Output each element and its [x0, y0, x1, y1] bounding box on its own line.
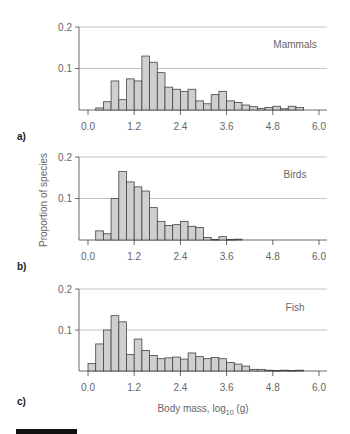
- histogram-bar: [180, 221, 188, 240]
- histogram-bar: [288, 106, 296, 110]
- histogram-bar: [173, 225, 181, 240]
- series-label-fish: Fish: [286, 302, 305, 313]
- histogram-bar: [234, 364, 242, 371]
- histogram-bar: [196, 228, 204, 240]
- histogram-bar: [142, 56, 150, 110]
- x-tick-label: 6.0: [312, 382, 326, 393]
- histogram-bar: [227, 101, 235, 110]
- histogram-bar: [188, 226, 196, 240]
- histogram-bar: [265, 370, 273, 371]
- histogram-bar: [273, 371, 281, 372]
- x-tick-label: 2.4: [173, 382, 187, 393]
- histogram-bar: [204, 238, 212, 240]
- histogram-bar: [96, 344, 104, 371]
- histogram-bar: [88, 364, 96, 371]
- histogram-bar: [103, 234, 111, 240]
- histogram-bar: [127, 79, 135, 110]
- x-tick-label: 1.2: [127, 251, 141, 262]
- histogram-bar: [96, 108, 104, 110]
- histogram-bar: [142, 191, 150, 240]
- histogram-bar: [281, 370, 289, 371]
- histogram-bar: [204, 104, 212, 110]
- histogram-bar: [111, 199, 119, 241]
- series-label-birds: Birds: [284, 169, 307, 180]
- histogram-bar: [281, 109, 289, 110]
- y-tick-label: 0.1: [58, 193, 72, 204]
- histogram-bar: [165, 358, 173, 371]
- histogram-bar: [250, 369, 258, 371]
- histogram-bar: [296, 370, 304, 371]
- x-tick-label: 1.2: [127, 121, 141, 132]
- histogram-bar: [142, 351, 150, 372]
- histogram-bar: [211, 240, 219, 241]
- y-tick-label: 0.1: [58, 325, 72, 336]
- panel-letter: c): [17, 396, 26, 407]
- x-tick-label: 3.6: [220, 382, 234, 393]
- chart-panel-birds: 0.10.20.01.22.43.64.86.0Birdsb): [17, 152, 327, 273]
- histogram-bar: [157, 359, 165, 371]
- histogram-bar: [265, 108, 273, 110]
- histogram-bar: [119, 172, 127, 240]
- histogram-bar: [196, 357, 204, 371]
- histogram-bar: [134, 339, 142, 371]
- histogram-bar: [227, 240, 235, 241]
- panel-letter: a): [17, 131, 26, 142]
- x-tick-label: 3.6: [220, 121, 234, 132]
- y-tick-label: 0.2: [58, 284, 72, 295]
- histogram-bar: [188, 353, 196, 371]
- histogram-bar: [188, 89, 196, 110]
- histogram-bar: [119, 100, 127, 110]
- histogram-bar: [127, 355, 135, 371]
- histogram-bar: [257, 108, 265, 110]
- histogram-bar: [219, 91, 227, 110]
- histogram-bar: [96, 231, 104, 240]
- histogram-bar: [173, 357, 181, 371]
- y-tick-label: 0.2: [58, 22, 72, 33]
- histogram-bar: [273, 106, 281, 110]
- x-tick-label: 2.4: [173, 251, 187, 262]
- x-tick-label: 1.2: [127, 382, 141, 393]
- footer-black-bar: [16, 429, 77, 434]
- histogram-bar: [150, 62, 158, 110]
- y-tick-label: 0.2: [58, 152, 72, 163]
- histogram-bar: [242, 105, 250, 110]
- y-tick-label: 0.1: [58, 63, 72, 74]
- histogram-bar: [196, 101, 204, 110]
- histogram-bar: [157, 221, 165, 240]
- histogram-bar: [150, 208, 158, 240]
- histogram-bar: [111, 81, 119, 110]
- y-axis-title: Proportion of species: [38, 153, 49, 247]
- histogram-bar: [219, 237, 227, 240]
- histogram-bar: [103, 102, 111, 110]
- x-tick-label: 2.4: [173, 121, 187, 132]
- x-tick-label: 4.8: [266, 382, 280, 393]
- histogram-bar: [227, 362, 235, 371]
- histogram-bar: [242, 366, 250, 371]
- panel-letter: b): [17, 261, 26, 272]
- histogram-bar: [127, 182, 135, 240]
- histogram-bar: [211, 95, 219, 110]
- histogram-bar: [134, 81, 142, 110]
- x-tick-label: 6.0: [312, 251, 326, 262]
- chart-panel-fish: 0.10.20.01.22.43.64.86.0Fishc): [17, 284, 327, 408]
- histogram-bar: [257, 369, 265, 371]
- histogram-bar: [111, 316, 119, 371]
- x-tick-label: 0.0: [81, 382, 95, 393]
- histogram-bar: [134, 187, 142, 240]
- x-axis-title: Body mass, log10 (g): [157, 403, 248, 416]
- histogram-bar: [250, 107, 258, 110]
- x-tick-label: 3.6: [220, 251, 234, 262]
- histogram-bar: [119, 322, 127, 371]
- x-tick-label: 4.8: [266, 121, 280, 132]
- histogram-bar: [234, 239, 242, 240]
- chart-panel-mammals: 0.10.20.01.22.43.64.86.0Mammalsa): [17, 22, 327, 143]
- histogram-bar: [296, 108, 304, 110]
- x-tick-label: 0.0: [81, 251, 95, 262]
- histogram-bar: [288, 371, 296, 372]
- histogram-bar: [180, 359, 188, 371]
- histogram-bar: [150, 355, 158, 371]
- series-label-mammals: Mammals: [273, 39, 316, 50]
- histogram-bar: [103, 330, 111, 371]
- histogram-figure: 0.10.20.01.22.43.64.86.0Mammalsa)0.10.20…: [0, 0, 350, 434]
- x-tick-label: 4.8: [266, 251, 280, 262]
